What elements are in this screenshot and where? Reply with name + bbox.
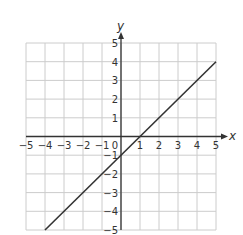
coordinate-plane: −5−4−3−2−1012345 54321−1−2−3−4−5 x y [0, 0, 243, 235]
x-axis-label: x [228, 129, 237, 143]
y-tick-label: −4 [103, 206, 118, 217]
x-tick-label: −1 [95, 140, 110, 151]
x-tick-label: 2 [156, 140, 162, 151]
y-tick-label: 2 [112, 94, 118, 105]
y-tick-label: 3 [112, 75, 118, 86]
x-tick-label: 0 [112, 140, 118, 151]
x-axis-arrow-icon [221, 134, 228, 140]
y-tick-label: 5 [112, 38, 118, 49]
x-tick-label: −4 [38, 140, 53, 151]
x-tick-label: 1 [137, 140, 143, 151]
x-tick-label: −3 [57, 140, 72, 151]
y-tick-label: −5 [103, 225, 118, 235]
x-tick-label: −5 [19, 140, 34, 151]
x-tick-labels: −5−4−3−2−1012345 [19, 140, 220, 151]
x-tick-label: −2 [76, 140, 91, 151]
x-tick-label: 3 [175, 140, 181, 151]
y-axis-arrow-icon [118, 32, 124, 39]
x-tick-label: 4 [194, 140, 200, 151]
x-tick-label: 5 [213, 140, 219, 151]
y-tick-label: 1 [112, 113, 118, 124]
y-tick-label: −1 [103, 150, 118, 161]
y-tick-label: −2 [103, 169, 118, 180]
y-axis-label: y [116, 19, 125, 33]
y-tick-label: 4 [112, 57, 118, 68]
y-tick-label: −3 [103, 188, 118, 199]
